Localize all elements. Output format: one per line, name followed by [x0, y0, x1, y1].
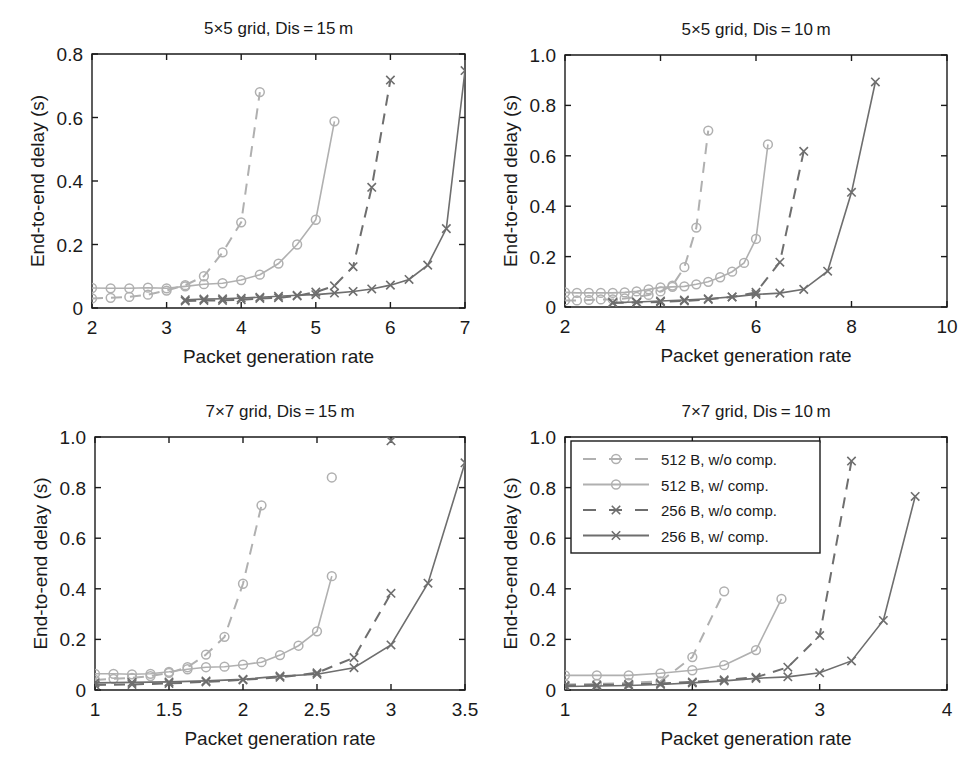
x-tick-label: 1 [560, 699, 571, 720]
chart-panel-1: 5×5 grid, Dis = 15 m23456700.20.40.60.8P… [0, 0, 482, 383]
data-point-marker [424, 261, 432, 269]
x-axis-title: Packet generation rate [183, 346, 374, 367]
plot-area [91, 437, 470, 690]
y-tick-label: 0.6 [57, 108, 83, 129]
series-markers [181, 76, 395, 305]
x-tick-label: 4 [655, 316, 666, 337]
x-tick-label: 3 [814, 699, 825, 720]
y-tick-label: 0.2 [530, 247, 556, 268]
series-line [185, 71, 465, 300]
data-point-marker [405, 275, 413, 283]
x-tick-label: 1 [90, 699, 101, 720]
y-tick-label: 0.8 [530, 478, 556, 499]
series-markers [561, 595, 786, 680]
x-tick-label: 3 [386, 699, 397, 720]
y-tick-label: 0.6 [530, 528, 556, 549]
series-markers [561, 126, 713, 305]
series-markers [88, 117, 339, 293]
data-point-marker [720, 587, 729, 596]
series-line [92, 92, 260, 298]
y-tick-label: 0.4 [530, 579, 557, 600]
figure-canvas: 5×5 grid, Dis = 15 m23456700.20.40.60.8P… [0, 0, 964, 765]
panel-svg-1: 5×5 grid, Dis = 15 m23456700.20.40.60.8P… [0, 0, 482, 383]
data-point-marker [327, 473, 336, 482]
series-line [565, 599, 781, 675]
panel-title: 7×7 grid, Dis = 10 m [681, 402, 830, 421]
plot-area [561, 78, 880, 307]
y-tick-label: 1.0 [530, 45, 556, 66]
x-tick-label: 2 [87, 317, 98, 338]
y-tick-label: 0.6 [530, 146, 556, 167]
x-tick-label: 3.5 [452, 699, 478, 720]
x-tick-label: 2 [238, 699, 249, 720]
y-tick-label: 0.6 [60, 528, 86, 549]
series-line [613, 151, 804, 303]
chart-panel-3: 7×7 grid, Dis = 15 m11.522.533.500.20.40… [0, 383, 482, 765]
axis-frame [565, 55, 947, 307]
y-tick-label: 0.2 [60, 629, 86, 650]
data-point-marker [387, 641, 395, 649]
x-tick-label: 7 [460, 317, 471, 338]
series-markers [91, 501, 266, 684]
series-markers [91, 459, 469, 688]
series-line [565, 131, 708, 301]
x-tick-label: 2.5 [304, 699, 330, 720]
series-markers [561, 140, 773, 297]
panel-svg-2: 5×5 grid, Dis = 10 m24681000.20.40.60.81… [482, 0, 964, 383]
y-tick-label: 0.8 [60, 478, 86, 499]
x-tick-label: 2 [687, 699, 698, 720]
x-axis-title: Packet generation rate [184, 728, 375, 749]
data-point-marker [350, 653, 358, 661]
plot-area [88, 66, 470, 305]
chart-panel-2: 5×5 grid, Dis = 10 m24681000.20.40.60.81… [482, 0, 964, 383]
data-point-marker [823, 267, 831, 275]
data-point-marker [847, 657, 855, 665]
x-tick-label: 6 [751, 316, 762, 337]
data-point-marker [387, 589, 395, 597]
x-tick-label: 3 [161, 317, 172, 338]
y-tick-label: 0.8 [530, 95, 556, 116]
y-axis-title: End-to-end delay (s) [500, 95, 521, 267]
series-markers [609, 147, 808, 307]
series-line [95, 463, 465, 683]
panel-title: 5×5 grid, Dis = 10 m [681, 20, 830, 39]
y-tick-label: 0.2 [530, 629, 556, 650]
x-tick-label: 4 [236, 317, 247, 338]
series-line [565, 591, 724, 684]
y-tick-label: 1.0 [60, 427, 86, 448]
x-tick-label: 1.5 [156, 699, 182, 720]
x-tick-label: 6 [385, 317, 396, 338]
series-line [565, 144, 768, 292]
series-markers [88, 88, 265, 303]
legend-label-1: 512 B, w/ comp. [661, 477, 769, 494]
y-tick-label: 0 [75, 680, 86, 701]
series-line [95, 593, 391, 685]
y-axis-title: End-to-end delay (s) [30, 477, 51, 649]
series-line [185, 80, 390, 301]
axis-frame [95, 437, 465, 690]
x-tick-label: 8 [846, 316, 857, 337]
data-point-marker [776, 258, 784, 266]
data-point-marker [784, 663, 792, 671]
data-point-marker [330, 282, 338, 290]
x-tick-label: 2 [560, 316, 571, 337]
legend-label-0: 512 B, w/o comp. [661, 451, 777, 468]
y-tick-label: 0.4 [60, 579, 87, 600]
legend-label-2: 256 B, w/o comp. [661, 502, 777, 519]
legend: 512 B, w/o comp.512 B, w/ comp.256 B, w/… [571, 441, 820, 553]
x-axis-title: Packet generation rate [660, 728, 851, 749]
y-tick-label: 1.0 [530, 427, 556, 448]
y-tick-label: 0.8 [57, 44, 83, 65]
y-tick-label: 0.2 [57, 235, 83, 256]
legend-label-3: 256 B, w/ comp. [661, 528, 769, 545]
panel-title: 7×7 grid, Dis = 15 m [205, 402, 354, 421]
series-markers [181, 66, 469, 304]
series-line [95, 576, 332, 674]
y-tick-label: 0 [545, 680, 556, 701]
y-tick-label: 0.4 [57, 171, 84, 192]
data-point-marker [218, 248, 227, 257]
y-tick-label: 0 [72, 298, 83, 319]
axis-frame [92, 54, 465, 308]
series-markers [91, 572, 337, 679]
chart-panel-4: 7×7 grid, Dis = 10 m123400.20.40.60.81.0… [482, 383, 964, 765]
